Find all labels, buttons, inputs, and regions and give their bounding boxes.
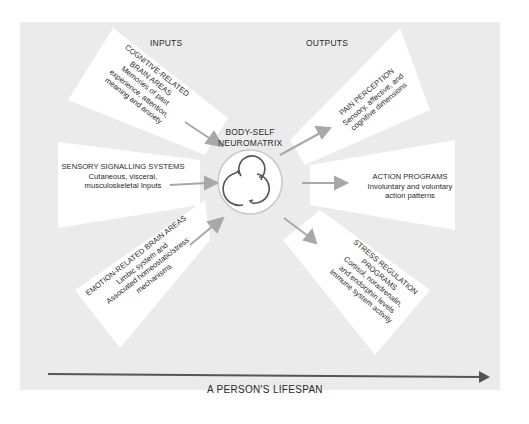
diagram-shapes (0, 0, 529, 424)
inputs-header: INPUTS (150, 38, 182, 48)
output-action-body-1: Involuntary and voluntary (355, 182, 465, 192)
input-sensory-text: SENSORY SIGNALLING SYSTEMS Cutaneous, vi… (58, 162, 188, 191)
output-action-body-2: action patterns (355, 191, 465, 201)
input-sensory-body-1: Cutaneous, visceral, (58, 172, 188, 182)
lifespan-label: A PERSON'S LIFESPAN (170, 384, 360, 395)
outputs-header: OUTPUTS (306, 38, 348, 48)
input-sensory-title: SENSORY SIGNALLING SYSTEMS (58, 162, 188, 172)
lifespan-arrow (48, 371, 490, 383)
neuromatrix-title: BODY-SELF NEUROMATRIX (218, 127, 282, 149)
neuromatrix-title-line2: NEUROMATRIX (218, 138, 282, 149)
input-sensory-body-2: musculoskeletal Inputs (58, 181, 188, 191)
output-action-text: ACTION PROGRAMS Involuntary and voluntar… (355, 172, 465, 201)
output-action-title: ACTION PROGRAMS (355, 172, 465, 182)
neuromatrix-circle (218, 150, 282, 214)
neuromatrix-title-line1: BODY-SELF (218, 127, 282, 138)
